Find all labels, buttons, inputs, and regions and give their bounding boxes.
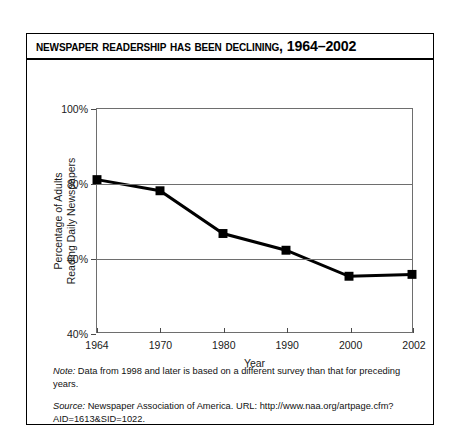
x-tick-label-2000: 2000 [339, 339, 362, 351]
page-title: Newspaper Readership Has Been Declining,… [36, 39, 356, 53]
source-line: Source: Newspaper Association of America… [53, 400, 419, 425]
note-label: Note: [53, 366, 75, 376]
data-point-1990 [282, 246, 291, 255]
gridline-60 [97, 259, 412, 260]
y-tick-label-80: 80% [67, 178, 88, 190]
x-tick-label-1990: 1990 [276, 339, 299, 351]
footnotes: Note: Data from 1998 and later is based … [53, 365, 419, 425]
y-tick-label-100: 100% [61, 103, 88, 115]
x-tick-label-1970: 1970 [149, 339, 172, 351]
source-label: Source: [53, 401, 85, 411]
note-line: Note: Data from 1998 and later is based … [53, 365, 419, 390]
x-tick-mark-1970 [160, 328, 161, 333]
plot-area: 40%60%80%100%196419701980199020002002 [96, 108, 413, 333]
gridline-80 [97, 184, 412, 185]
figure-frame: Newspaper Readership Has Been Declining,… [26, 33, 434, 425]
y-tick-mark-100 [91, 109, 96, 110]
data-point-1970 [156, 186, 165, 195]
x-tick-mark-1964 [97, 328, 98, 333]
note-text: Data from 1998 and later is based on a d… [53, 366, 400, 389]
line-series [97, 109, 412, 332]
x-tick-label-1964: 1964 [85, 339, 108, 351]
x-tick-mark-2002 [413, 328, 414, 333]
x-tick-label-2002: 2002 [402, 339, 425, 351]
data-point-2002 [408, 270, 417, 279]
data-point-1980 [219, 229, 228, 238]
source-text: Newspaper Association of America. URL: h… [53, 401, 394, 424]
x-tick-mark-1990 [287, 328, 288, 333]
y-tick-mark-60 [91, 259, 96, 260]
y-tick-mark-80 [91, 184, 96, 185]
y-axis-title: Percentage of Adults Reading Daily Newsp… [51, 108, 79, 333]
x-tick-mark-2000 [351, 328, 352, 333]
x-tick-mark-1980 [224, 328, 225, 333]
y-tick-mark-40 [91, 334, 96, 335]
figure-title-band: Newspaper Readership Has Been Declining,… [27, 34, 433, 60]
y-tick-label-60: 60% [67, 253, 88, 265]
chart-region: Percentage of Adults Reading Daily Newsp… [27, 60, 433, 342]
series-line [97, 180, 412, 277]
y-axis-title-line-1: Percentage of Adults [52, 157, 65, 284]
x-tick-label-1980: 1980 [212, 339, 235, 351]
data-point-2000 [345, 272, 354, 281]
